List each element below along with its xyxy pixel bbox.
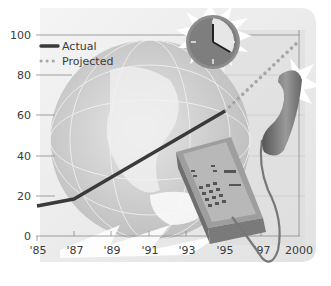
x-tick-87: '87 [66, 244, 83, 257]
x-tick-91: '91 [141, 244, 158, 257]
x-tick-89: '89 [103, 244, 120, 257]
legend-projected-label: Projected [62, 55, 113, 68]
chart-canvas: 100 80 60 40 20 0 '85 '87 '89 '91 '93 '9… [0, 0, 331, 286]
y-tick-100: 100 [10, 29, 31, 42]
y-tick-40: 40 [17, 150, 31, 163]
x-tick-2000: 2000 [285, 244, 313, 257]
legend-actual-label: Actual [62, 40, 96, 53]
x-tick-93: '93 [178, 244, 195, 257]
chart-figure: 100 80 60 40 20 0 '85 '87 '89 '91 '93 '9… [0, 0, 331, 286]
y-tick-60: 60 [17, 109, 31, 122]
x-tick-95: '95 [216, 244, 233, 257]
x-tick-85: '85 [29, 244, 46, 257]
y-tick-80: 80 [17, 69, 31, 82]
y-tick-0: 0 [24, 230, 31, 243]
y-tick-20: 20 [17, 190, 31, 203]
